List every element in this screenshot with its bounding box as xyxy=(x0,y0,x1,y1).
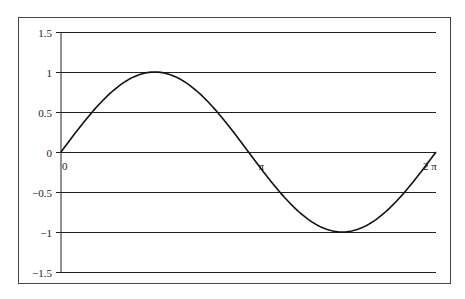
x-annotation: 0 xyxy=(62,160,68,172)
y-tick-label: 1.5 xyxy=(38,27,52,39)
y-tick-label: −1.5 xyxy=(32,267,52,279)
y-tick-label: −0.5 xyxy=(32,187,52,199)
sine-chart: 1.510.50−0.5−1−1.5 0π2 π xyxy=(0,0,465,299)
y-tick-label: 0.5 xyxy=(38,107,52,119)
y-tick-label: −1 xyxy=(40,227,52,239)
y-tick-label: 1 xyxy=(47,67,53,79)
y-tick-label: 0 xyxy=(47,147,53,159)
chart-frame xyxy=(19,18,451,284)
